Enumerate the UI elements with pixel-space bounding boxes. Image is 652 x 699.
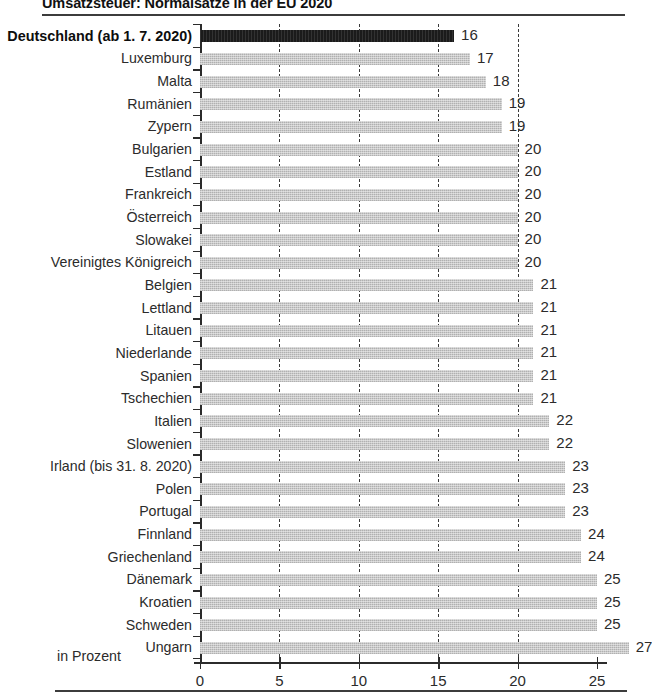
category-label: Polen [4, 481, 192, 497]
x-tick-label-20: 20 [509, 672, 526, 689]
bar-value-label: 20 [525, 162, 542, 179]
bar-value-label: 21 [540, 389, 557, 406]
y-tick [193, 318, 200, 319]
x-tick-label-25: 25 [589, 672, 606, 689]
bar-value-label: 27 [636, 638, 652, 655]
y-tick [193, 228, 200, 229]
bar [200, 257, 518, 269]
y-tick [193, 432, 200, 433]
bar-value-label: 20 [525, 208, 542, 225]
y-tick [193, 500, 200, 501]
x-tick-20 [518, 657, 519, 669]
bar-value-label: 17 [477, 49, 494, 66]
bar-value-label: 25 [604, 615, 621, 632]
bar-value-label: 21 [540, 298, 557, 315]
bar-value-label: 23 [572, 502, 589, 519]
bar-value-label: 21 [540, 321, 557, 338]
y-tick [193, 24, 200, 25]
y-tick [193, 386, 200, 387]
y-tick [193, 137, 200, 138]
category-label: Irland (bis 31. 8. 2020) [4, 458, 192, 474]
y-tick [193, 115, 200, 116]
category-label: Frankreich [4, 186, 192, 202]
plot-area: 0510152025Deutschland (ab 1. 7. 2020)16L… [200, 24, 597, 662]
bar-value-label: 22 [556, 411, 573, 428]
bar [200, 144, 518, 156]
bar [200, 212, 518, 224]
y-tick [193, 636, 200, 637]
header-rule [42, 14, 625, 16]
gridline-5 [279, 24, 280, 662]
bar [200, 461, 565, 473]
bar [200, 393, 533, 405]
bar-value-label: 21 [540, 343, 557, 360]
x-tick-5 [279, 657, 280, 669]
bar-value-label: 19 [509, 117, 526, 134]
x-tick-15 [438, 657, 439, 669]
y-tick [193, 47, 200, 48]
x-tick-label-0: 0 [196, 672, 204, 689]
bar [200, 98, 502, 110]
bar [200, 438, 549, 450]
bar [200, 76, 486, 88]
bar-value-label: 25 [604, 570, 621, 587]
category-label: Ungarn [4, 639, 192, 655]
y-tick [193, 568, 200, 569]
category-label: Portugal [4, 503, 192, 519]
category-label: Slowenien [4, 436, 192, 452]
bar-value-label: 21 [540, 366, 557, 383]
category-label: Estland [4, 164, 192, 180]
bar [200, 483, 565, 495]
category-label: Niederlande [4, 345, 192, 361]
bar [200, 279, 533, 291]
category-label: Dänemark [4, 571, 192, 587]
bar-value-label: 19 [509, 94, 526, 111]
y-tick [193, 477, 200, 478]
bar [200, 415, 549, 427]
x-tick-label-10: 10 [350, 672, 367, 689]
y-tick [193, 522, 200, 523]
category-label: Rumänien [4, 96, 192, 112]
y-tick [193, 69, 200, 70]
bar-value-label: 21 [540, 275, 557, 292]
y-tick [193, 545, 200, 546]
category-label: Vereinigtes Königreich [4, 254, 192, 270]
y-tick [193, 183, 200, 184]
y-tick [193, 364, 200, 365]
category-label: Litauen [4, 322, 192, 338]
category-label: Spanien [4, 368, 192, 384]
category-label: Österreich [4, 209, 192, 225]
bar-value-label: 20 [525, 140, 542, 157]
bar-value-label: 23 [572, 479, 589, 496]
bar-value-label: 23 [572, 457, 589, 474]
category-label: Belgien [4, 277, 192, 293]
bar [200, 529, 581, 541]
bar [200, 302, 533, 314]
y-tick [193, 92, 200, 93]
bar [200, 370, 533, 382]
bar [200, 166, 518, 178]
bar-value-label: 16 [461, 26, 478, 43]
category-label: Malta [4, 73, 192, 89]
bar [200, 619, 597, 631]
y-tick [193, 341, 200, 342]
bar [200, 189, 518, 201]
category-label: Schweden [4, 617, 192, 633]
y-tick [193, 205, 200, 206]
y-tick [193, 613, 200, 614]
gridline-10 [359, 24, 360, 662]
x-tick-25 [597, 657, 598, 669]
bar [200, 53, 470, 65]
bar [200, 597, 597, 609]
bar [200, 551, 581, 563]
x-tick-10 [359, 657, 360, 669]
category-label: Italien [4, 413, 192, 429]
y-tick [193, 590, 200, 591]
bar-value-label: 20 [525, 253, 542, 270]
category-label: Kroatien [4, 594, 192, 610]
y-tick [193, 296, 200, 297]
bar [200, 121, 502, 133]
x-tick-label-15: 15 [430, 672, 447, 689]
bar-value-label: 24 [588, 525, 605, 542]
bar [200, 574, 597, 586]
